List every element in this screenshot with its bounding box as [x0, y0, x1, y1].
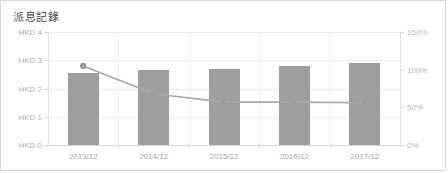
line-marker-2014-12 [151, 91, 156, 96]
left-axis-label-4: HKD 4 [18, 28, 42, 37]
x-axis-label-2013-12: 2013/12 [69, 152, 98, 161]
dividend-record-chart-card: 派息記錄 HKD 0HKD 1HKD 2HKD 3HKD 4 0%50%100%… [0, 0, 446, 171]
line-marker-2013-12 [80, 63, 86, 69]
right-axis-spine [400, 32, 401, 145]
left-axis-label-1: HKD 1 [18, 112, 42, 121]
x-tickmark-4 [330, 145, 331, 148]
chart-plot-area: HKD 0HKD 1HKD 2HKD 3HKD 4 0%50%100%150% … [48, 32, 400, 145]
chart-title: 派息記錄 [13, 8, 59, 24]
x-axis-label-2017-12: 2017/12 [350, 152, 379, 161]
line-marker-2015-12 [221, 100, 226, 105]
gridline-hkd-0 [48, 145, 400, 146]
right-axis-label-50: 50% [407, 103, 423, 112]
x-tickmark-3 [259, 145, 260, 148]
line-marker-2017-12 [362, 100, 367, 105]
left-axis-spine [48, 32, 49, 145]
right-axis-label-100: 100% [407, 65, 427, 74]
x-tickmark-1 [118, 145, 119, 148]
left-axis-label-0: HKD 0 [18, 141, 42, 150]
x-axis-label-2014-12: 2014/12 [139, 152, 168, 161]
x-axis-label-2016-12: 2016/12 [280, 152, 309, 161]
right-tickmark-0 [400, 145, 404, 146]
x-axis-label-2015-12: 2015/12 [210, 152, 239, 161]
left-axis-label-2: HKD 2 [18, 84, 42, 93]
line-marker-2016-12 [292, 100, 297, 105]
right-axis-label-150: 150% [407, 28, 427, 37]
line-series [48, 32, 400, 145]
left-axis-label-3: HKD 3 [18, 56, 42, 65]
right-axis-label-0: 0% [407, 141, 419, 150]
payout-ratio-line [83, 66, 365, 103]
x-tickmark-2 [189, 145, 190, 148]
